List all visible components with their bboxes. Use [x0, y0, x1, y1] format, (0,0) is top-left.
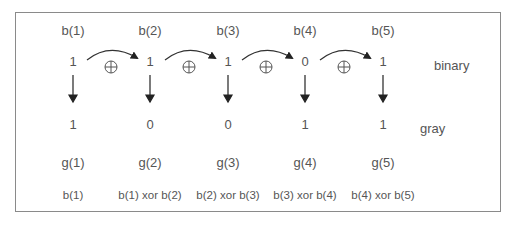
gray-value-2: 0: [146, 117, 153, 132]
gray-label-g5: g(5): [371, 155, 394, 170]
gray-value-5: 1: [379, 117, 386, 132]
gray-label-g4: g(4): [293, 155, 316, 170]
formula-1: b(1): [63, 189, 83, 201]
curved-arrow-icon: [87, 50, 370, 60]
gray-value-1: 1: [69, 117, 76, 132]
formula-4: b(3) xor b(4): [273, 189, 336, 201]
gray-value-4: 1: [301, 117, 308, 132]
gray-value-3: 0: [224, 117, 231, 132]
xor-circle-icon: [105, 61, 350, 73]
formula-5: b(4) xor b(5): [351, 189, 414, 201]
formula-3: b(2) xor b(3): [196, 189, 259, 201]
down-arrow-icon: [69, 75, 387, 102]
gray-label-g3: g(3): [216, 155, 239, 170]
gray-label-g2: g(2): [138, 155, 161, 170]
formula-2: b(1) xor b(2): [118, 189, 181, 201]
row-label-gray: gray: [420, 121, 445, 136]
gray-label-g1: g(1): [61, 155, 84, 170]
